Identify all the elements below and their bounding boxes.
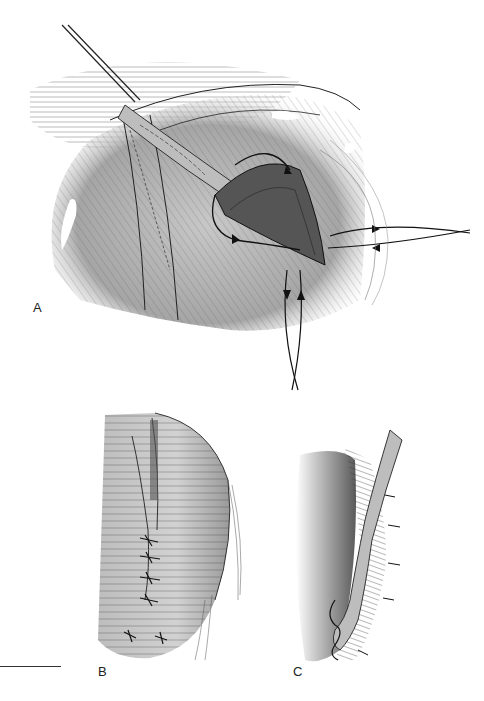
panel-a-illustration xyxy=(0,0,484,400)
figure-container: A xyxy=(0,0,484,701)
panel-label-a: A xyxy=(33,300,42,315)
scale-bar xyxy=(0,666,61,667)
panel-label-b: B xyxy=(98,664,107,679)
panel-label-c: C xyxy=(293,664,302,679)
